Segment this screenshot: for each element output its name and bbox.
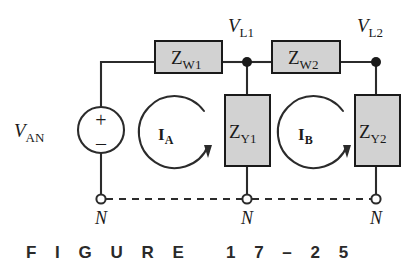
ia-sub: A xyxy=(165,133,174,147)
source-minus-sign: – xyxy=(95,132,107,154)
circuit-diagram: + – VAN ZW1 ZW2 ZY1 xyxy=(0,0,418,280)
terminal-node-n2 xyxy=(242,194,251,203)
wire-source-to-zw1 xyxy=(101,62,155,107)
ib-sub: B xyxy=(305,133,313,147)
mesh-current-ib: IB xyxy=(278,96,351,168)
impedance-zy1: ZY1 xyxy=(225,95,270,166)
junction-dot-vl1 xyxy=(242,57,252,67)
impedance-zw2: ZW2 xyxy=(272,41,340,73)
zy2-main: Z xyxy=(359,121,371,142)
neutral-label-n1: N xyxy=(94,208,108,228)
label-van: VAN xyxy=(14,120,45,145)
zw2-main: Z xyxy=(288,47,300,68)
neutral-label-n2: N xyxy=(240,208,254,228)
vl2-sub: L2 xyxy=(369,25,383,40)
figure-container: + – VAN ZW1 ZW2 ZY1 xyxy=(0,0,418,280)
impedance-zy2: ZY2 xyxy=(355,95,400,166)
terminal-node-n3 xyxy=(371,194,380,203)
vl1-label-text: VL1 xyxy=(228,15,254,40)
neutral-label-n3: N xyxy=(369,208,383,228)
mesh-current-ia: IA xyxy=(139,96,212,168)
ia-label-text: IA xyxy=(158,125,174,147)
source-plus-sign: + xyxy=(95,109,106,131)
zw2-sub: W2 xyxy=(300,57,319,72)
zw1-main: Z xyxy=(171,47,183,68)
voltage-source-van: + – xyxy=(78,107,124,154)
vl2-label-text: VL2 xyxy=(357,15,383,40)
zw1-sub: W1 xyxy=(183,57,202,72)
impedance-zw1: ZW1 xyxy=(155,41,222,73)
terminal-node-n1 xyxy=(96,194,105,203)
junction-dot-vl2 xyxy=(371,57,381,67)
label-vl1: VL1 xyxy=(228,15,254,40)
ia-loop-arc xyxy=(139,96,208,168)
label-vl2: VL2 xyxy=(357,15,383,40)
ib-label-text: IB xyxy=(298,125,313,147)
van-sub: AN xyxy=(26,130,45,145)
zy1-sub: Y1 xyxy=(241,131,257,146)
vl1-sub: L1 xyxy=(240,25,254,40)
van-label-text: VAN xyxy=(14,120,45,145)
zy2-sub: Y2 xyxy=(371,131,387,146)
zy1-main: Z xyxy=(229,121,241,142)
figure-caption: F I G U R E 1 7 – 2 5 xyxy=(26,243,355,263)
